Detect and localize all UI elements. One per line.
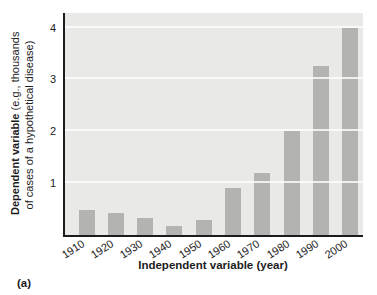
bar-1960 <box>225 188 241 235</box>
panel-label: (a) <box>17 277 31 289</box>
y-axis-title-line1: Dependent variable (e.g., thousands <box>9 35 23 215</box>
gridline-2 <box>65 129 363 131</box>
bar-2000 <box>342 28 358 235</box>
bar-1950 <box>196 220 212 235</box>
bar-1990 <box>313 66 329 235</box>
gridline-1 <box>65 181 363 183</box>
bar-1940 <box>166 226 182 235</box>
bar-1910 <box>79 210 95 235</box>
gridline-3 <box>65 77 363 79</box>
gridline-4 <box>65 26 363 28</box>
bar-1930 <box>137 218 153 235</box>
plot-area <box>63 13 363 237</box>
bar-1920 <box>108 213 124 235</box>
x-axis-title: Independent variable (year) <box>63 259 363 271</box>
y-axis-title: Dependent variable (e.g., thousands of c… <box>9 35 37 215</box>
y-axis-title-line1-rest: (e.g., thousands <box>9 32 21 114</box>
y-tick-label-3: 3 <box>34 72 56 86</box>
y-tick-label-4: 4 <box>34 21 56 35</box>
y-tick-label-2: 2 <box>34 124 56 138</box>
bar-chart-figure: Dependent variable (e.g., thousands of c… <box>0 0 377 295</box>
y-tick-label-1: 1 <box>34 176 56 190</box>
y-axis-title-bold: Dependent variable <box>9 114 21 215</box>
